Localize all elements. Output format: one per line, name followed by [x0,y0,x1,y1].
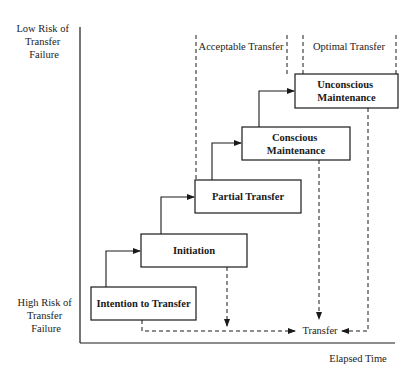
svg-text:Partial Transfer: Partial Transfer [212,191,285,202]
arrow-conscious-to-unconscious [259,91,294,127]
stage-initiation: Initiation [141,234,247,267]
zone-label-optimal: Optimal Transfer [313,41,386,52]
stage-intention-to-transfer: Intention to Transfer [91,287,196,320]
zone-label-acceptable: Acceptable Transfer [199,41,284,52]
y-axis-top-label: Low Risk of Transfer Failure [16,23,71,60]
y-axis-bottom-label: High Risk of Transfer Failure [18,297,75,334]
stage-unconscious-maintenance: Unconscious Maintenance [295,74,398,108]
arrow-partial-to-conscious [212,143,241,180]
svg-text:Initiation: Initiation [173,245,215,256]
dashed-intention-to-transfer [142,320,295,331]
outcome-transfer-label: Transfer [302,325,338,336]
transfer-stages-diagram: Low Risk of Transfer Failure High Risk o… [0,0,417,377]
svg-text:Intention to Transfer: Intention to Transfer [96,298,190,309]
stage-partial-transfer: Partial Transfer [195,180,301,213]
x-axis-label: Elapsed Time [329,353,387,364]
stage-conscious-maintenance: Conscious Maintenance [242,127,350,160]
arrow-initiation-to-partial [161,197,194,234]
arrow-intention-to-initiation [106,251,140,287]
